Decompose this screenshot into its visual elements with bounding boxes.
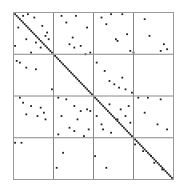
nonzero-point <box>25 67 27 69</box>
nonzero-point <box>30 30 32 32</box>
nonzero-point <box>21 142 23 144</box>
nonzero-point <box>69 43 71 45</box>
nonzero-point <box>57 134 59 136</box>
nonzero-point <box>73 105 75 107</box>
nonzero-point <box>94 97 96 99</box>
nonzero-point <box>17 27 19 29</box>
nonzero-point <box>80 110 82 112</box>
nonzero-point <box>16 15 18 17</box>
nonzero-point <box>86 27 88 29</box>
nonzero-point <box>91 93 93 95</box>
nonzero-point <box>129 134 131 136</box>
nonzero-point <box>83 85 85 87</box>
nonzero-point <box>40 107 42 109</box>
nonzero-point <box>149 35 151 37</box>
nonzero-point <box>19 62 21 64</box>
nonzero-point <box>120 108 122 110</box>
nonzero-point <box>139 144 141 146</box>
nonzero-point <box>152 157 154 159</box>
nonzero-point <box>69 127 71 129</box>
nonzero-point <box>94 155 96 157</box>
nonzero-point <box>144 149 146 151</box>
nonzero-point <box>14 45 16 47</box>
nonzero-point <box>128 105 130 107</box>
nonzero-point <box>147 97 149 99</box>
nonzero-point <box>120 123 122 125</box>
nonzero-point <box>37 37 39 39</box>
nonzero-point <box>77 78 79 80</box>
nonzero-point <box>134 139 136 141</box>
nonzero-point <box>96 115 98 117</box>
nonzero-point <box>17 17 19 19</box>
nonzero-point <box>61 15 63 17</box>
nonzero-point <box>125 115 127 117</box>
nonzero-point <box>45 118 47 120</box>
nonzero-point <box>77 118 79 120</box>
nonzero-point <box>126 33 128 35</box>
nonzero-point <box>22 22 24 24</box>
nonzero-point <box>89 52 91 54</box>
nonzero-point <box>32 32 34 34</box>
nonzero-point <box>25 25 27 27</box>
nonzero-point <box>57 97 59 99</box>
nonzero-point <box>25 113 27 115</box>
nonzero-point <box>145 150 147 152</box>
nonzero-point <box>22 15 24 17</box>
nonzero-point <box>131 135 133 137</box>
nonzero-point <box>153 162 155 164</box>
nonzero-point <box>65 22 67 24</box>
nonzero-point <box>166 48 168 50</box>
nonzero-point <box>131 92 133 94</box>
nonzero-point <box>105 23 107 25</box>
nonzero-point <box>115 118 117 120</box>
nonzero-point <box>144 18 146 20</box>
nonzero-point <box>102 129 104 131</box>
nonzero-point <box>161 167 163 169</box>
nonzero-point <box>83 135 85 137</box>
nonzero-point <box>14 13 16 15</box>
nonzero-point <box>48 48 50 50</box>
nonzero-point <box>168 174 170 176</box>
nonzero-point <box>40 47 42 49</box>
nonzero-point <box>43 112 45 114</box>
nonzero-point <box>126 130 128 132</box>
nonzero-point <box>134 144 136 146</box>
nonzero-point <box>117 118 119 120</box>
nonzero-point <box>113 83 115 85</box>
nonzero-point <box>96 62 98 64</box>
nonzero-point <box>160 165 162 167</box>
nonzero-point <box>75 77 77 79</box>
nonzero-point <box>137 142 139 144</box>
nonzero-point <box>41 42 43 44</box>
nonzero-point <box>171 177 173 179</box>
nonzero-point <box>81 83 83 85</box>
nonzero-point <box>105 108 107 110</box>
nonzero-point <box>101 103 103 105</box>
nonzero-point <box>109 80 111 82</box>
spy-plot-chart <box>0 0 188 191</box>
nonzero-point <box>19 18 21 20</box>
nonzero-point <box>161 169 163 171</box>
nonzero-point <box>35 42 37 44</box>
nonzero-point <box>54 55 56 57</box>
nonzero-point <box>107 110 109 112</box>
nonzero-point <box>149 154 151 156</box>
nonzero-point <box>64 65 66 67</box>
nonzero-point <box>62 63 64 65</box>
nonzero-point <box>56 57 58 59</box>
nonzero-point <box>59 60 61 62</box>
nonzero-point <box>56 167 58 169</box>
nonzero-point <box>101 17 103 19</box>
nonzero-point <box>33 17 35 19</box>
nonzero-point <box>27 13 29 15</box>
nonzero-point <box>27 27 29 29</box>
nonzero-point <box>121 13 123 15</box>
nonzero-point <box>37 115 39 117</box>
nonzero-point <box>35 68 37 70</box>
nonzero-point <box>109 103 111 105</box>
nonzero-point <box>96 98 98 100</box>
nonzero-point <box>86 108 88 110</box>
nonzero-point <box>48 38 50 40</box>
nonzero-point <box>49 50 51 52</box>
nonzero-point <box>45 45 47 47</box>
